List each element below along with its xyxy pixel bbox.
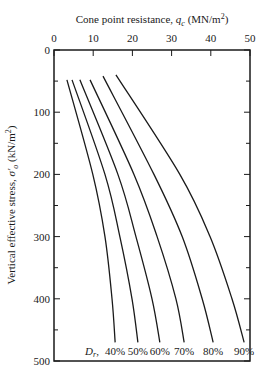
- curve-label: 90%: [234, 345, 254, 357]
- svg-text:20: 20: [127, 32, 139, 44]
- x-axis-title: Cone point resistance, qc (MN/m2): [76, 12, 229, 28]
- svg-text:500: 500: [34, 355, 51, 367]
- plot-frame: [54, 50, 250, 361]
- y-axis-title: Vertical effective stress, σ′o (kN/m2): [4, 125, 20, 284]
- curve-dr-70: [90, 80, 184, 342]
- curve-dr-80: [103, 76, 213, 342]
- curve-label: 60%: [150, 345, 170, 357]
- curve-dr-90: [116, 75, 244, 342]
- svg-text:300: 300: [34, 231, 51, 243]
- curve-labels: 40%50%60%70%80%90%Dr,: [84, 345, 254, 359]
- curve-label: 40%: [105, 345, 125, 357]
- x-axis-ticks: 01020304050: [51, 32, 256, 56]
- svg-text:100: 100: [34, 106, 51, 118]
- relative-density-label: Dr,: [84, 345, 99, 359]
- cone-resistance-chart: Cone point resistance, qc (MN/m2) 010203…: [0, 0, 271, 383]
- svg-text:10: 10: [88, 32, 100, 44]
- svg-text:400: 400: [34, 293, 51, 305]
- curve-dr-50: [72, 80, 138, 342]
- svg-text:50: 50: [245, 32, 257, 44]
- curve-label: 50%: [128, 345, 148, 357]
- svg-text:200: 200: [34, 168, 51, 180]
- y-axis-ticks: 0100200300400500: [34, 44, 251, 367]
- svg-text:40: 40: [205, 32, 217, 44]
- svg-text:0: 0: [51, 32, 57, 44]
- svg-text:0: 0: [45, 44, 51, 56]
- curve-label: 80%: [203, 345, 223, 357]
- svg-text:30: 30: [166, 32, 178, 44]
- curve-label: 70%: [174, 345, 194, 357]
- curve-dr-40: [67, 80, 115, 342]
- density-curves: [67, 75, 244, 342]
